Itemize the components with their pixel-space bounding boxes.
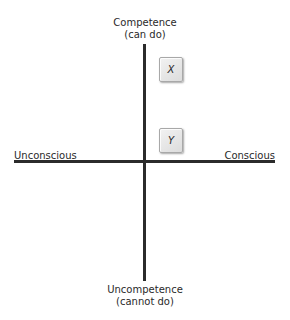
top-axis-label: Competence (can do) — [95, 17, 195, 41]
right-axis-label: Conscious — [224, 150, 275, 162]
bottom-axis-title: Uncompetence — [85, 284, 205, 296]
point-x-box: X — [159, 57, 183, 82]
top-axis-subtitle: (can do) — [95, 29, 195, 41]
bottom-axis-label: Uncompetence (cannot do) — [85, 284, 205, 308]
left-axis-label: Unconscious — [14, 150, 77, 162]
point-y-box: Y — [159, 128, 183, 153]
point-x-label: X — [168, 64, 175, 75]
top-axis-title: Competence — [95, 17, 195, 29]
bottom-axis-subtitle: (cannot do) — [85, 296, 205, 308]
point-y-label: Y — [168, 135, 174, 146]
